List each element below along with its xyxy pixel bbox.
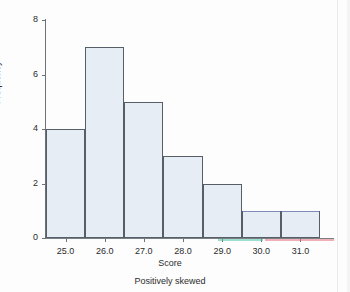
y-axis-tick <box>42 238 46 239</box>
y-axis-tick-label: 6 <box>18 70 38 79</box>
y-axis-tick-label: 2 <box>18 179 38 188</box>
baseline-tint-segment <box>218 239 263 241</box>
histogram-figure: 02468 25.026.027.028.029.030.031.0 Frequ… <box>0 0 350 292</box>
x-axis-tick-label: 31.0 <box>285 246 315 256</box>
y-axis-tick-label: 8 <box>18 15 38 24</box>
y-axis-tick-label: 0 <box>18 233 38 242</box>
baseline-tint-segment <box>265 239 334 241</box>
y-axis-title: Frequency <box>0 61 2 104</box>
histogram-bar <box>163 156 202 238</box>
plot-area <box>46 20 320 238</box>
bar-top-fringe <box>243 211 280 212</box>
x-axis-tick-label: 26.0 <box>90 246 120 256</box>
x-axis-tick <box>183 239 184 242</box>
x-axis-tick-label: 30.0 <box>246 246 276 256</box>
x-axis-title: Score <box>0 258 340 268</box>
x-axis-tick-label: 27.0 <box>129 246 159 256</box>
x-axis-tick <box>144 239 145 242</box>
x-axis-tick <box>105 239 106 242</box>
histogram-bar <box>203 184 242 239</box>
x-axis-tick-label: 29.0 <box>207 246 237 256</box>
histogram-bar <box>85 47 124 238</box>
histogram-bar <box>242 211 281 238</box>
histogram-bar <box>46 129 85 238</box>
histogram-bar <box>281 211 320 238</box>
x-axis-tick-label: 28.0 <box>168 246 198 256</box>
y-axis-tick-label: 4 <box>18 124 38 133</box>
bar-top-fringe <box>282 211 319 212</box>
scan-edge-line <box>337 0 338 292</box>
histogram-bar <box>124 102 163 238</box>
x-axis-tick-label: 25.0 <box>51 246 81 256</box>
figure-caption: Positively skewed <box>0 276 340 286</box>
x-axis-tick <box>66 239 67 242</box>
